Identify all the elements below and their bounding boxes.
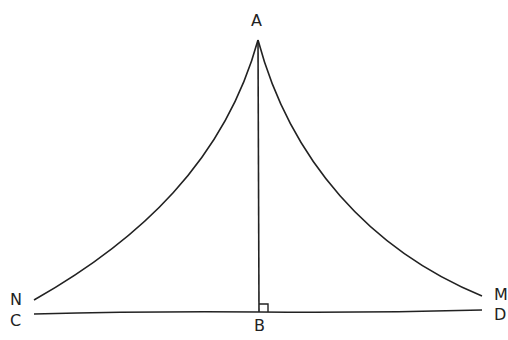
right-angle-marker xyxy=(259,304,268,312)
segment-A-B xyxy=(258,40,259,312)
label-N: N xyxy=(10,292,22,308)
curve-A-M xyxy=(258,40,482,296)
curve-A-N xyxy=(34,40,258,300)
label-A: A xyxy=(251,13,262,29)
label-M: M xyxy=(494,287,508,303)
line-C-D xyxy=(34,310,482,314)
label-C: C xyxy=(10,313,21,329)
label-D: D xyxy=(494,307,506,323)
geometry-figure xyxy=(0,0,508,340)
diagram-canvas: A B N C M D xyxy=(0,0,508,340)
label-B: B xyxy=(254,318,265,334)
